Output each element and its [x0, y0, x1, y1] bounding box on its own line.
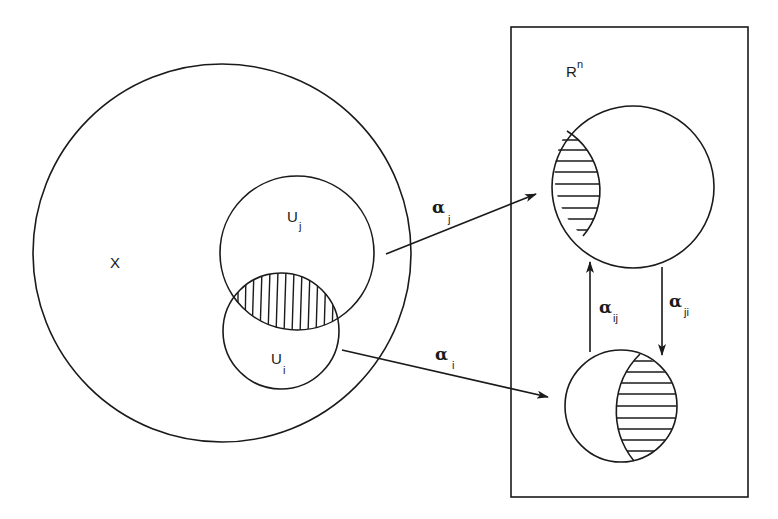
label-rn: R [566, 63, 577, 80]
image-i-lens-boundary [616, 354, 640, 461]
image-j-circle [552, 106, 714, 268]
label-alpha-j-sub: j [447, 213, 450, 225]
label-alpha-i-sub: i [452, 359, 454, 371]
image-i-hatching [610, 361, 690, 451]
image-j-hatching [550, 140, 620, 230]
label-alpha-ij: α [599, 297, 612, 317]
open-set-uj-circle [220, 176, 374, 330]
space-x-circle [33, 64, 411, 442]
label-ui: U [271, 350, 282, 367]
label-alpha-ij-sub: ij [613, 312, 618, 324]
rn-box [511, 27, 748, 497]
label-rn-exp: n [577, 58, 583, 70]
label-alpha-i: α [435, 344, 448, 364]
label-alpha-ji: α [669, 291, 682, 311]
diagram-canvas: X U j U i R n α j α i α [0, 0, 778, 519]
label-x: X [110, 254, 120, 271]
open-set-ui-circle [223, 273, 339, 389]
label-alpha-ji-sub: ji [683, 306, 689, 318]
label-uj: U [287, 208, 298, 225]
label-alpha-j: α [432, 197, 445, 217]
label-uj-sub: j [298, 220, 301, 232]
label-ui-sub: i [283, 364, 285, 376]
